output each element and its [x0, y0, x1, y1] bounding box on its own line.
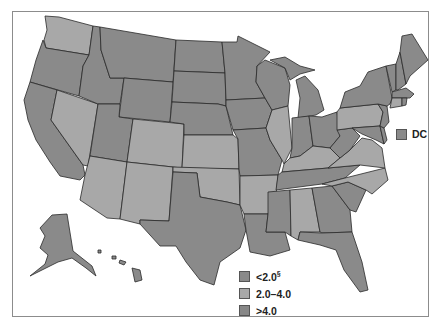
state-ia[interactable] [226, 98, 272, 130]
state-nm[interactable] [120, 162, 173, 224]
legend: <2.0§ 2.0–4.0 >4.0 [239, 268, 291, 319]
state-hi[interactable] [132, 268, 142, 282]
state-ms[interactable] [266, 190, 291, 236]
state-me[interactable] [400, 34, 428, 84]
us-map [0, 0, 440, 331]
dc-indicator: DC [396, 128, 427, 140]
state-fl[interactable] [298, 232, 368, 292]
legend-item-high: >4.0 [239, 302, 291, 319]
state-mi[interactable] [296, 76, 324, 118]
legend-label-high: >4.0 [256, 305, 277, 317]
state-nd[interactable] [174, 40, 225, 73]
legend-swatch-low [239, 271, 250, 282]
state-wy[interactable] [119, 78, 173, 122]
legend-swatch-high [239, 305, 250, 316]
state-ks[interactable] [182, 135, 239, 169]
dc-swatch[interactable] [396, 129, 407, 140]
state-ri[interactable] [402, 98, 407, 106]
legend-label-low: <2.0§ [256, 270, 281, 283]
legend-swatch-mid [239, 288, 250, 299]
dc-label: DC [412, 128, 427, 140]
legend-item-low: <2.0§ [239, 268, 291, 285]
legend-item-mid: 2.0–4.0 [239, 285, 291, 302]
state-hi-islands[interactable] [98, 250, 126, 265]
state-mt[interactable] [100, 27, 176, 82]
legend-label-mid: 2.0–4.0 [256, 288, 291, 300]
state-ct[interactable] [390, 98, 402, 108]
state-ny[interactable] [340, 66, 392, 108]
state-sd[interactable] [172, 71, 226, 106]
state-ak[interactable] [30, 214, 96, 276]
state-co[interactable] [127, 119, 184, 168]
